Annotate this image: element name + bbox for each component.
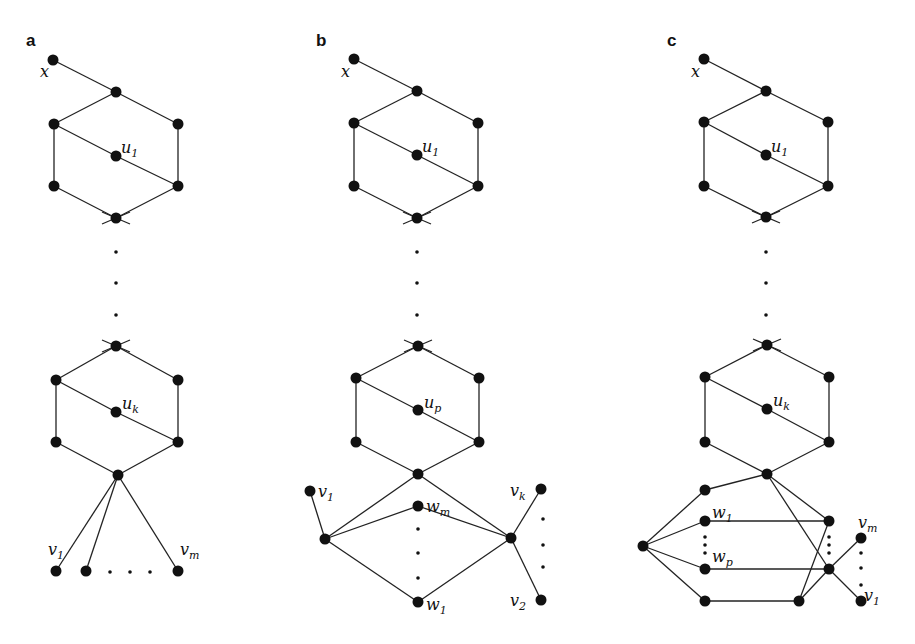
vertex-u1 <box>412 150 423 161</box>
vertex-label: w1 <box>426 595 447 617</box>
edge <box>356 346 418 378</box>
edge <box>354 123 417 155</box>
edge <box>705 474 767 490</box>
vertex-t1 <box>412 86 423 97</box>
edge <box>418 538 511 602</box>
vertex-u2 <box>762 404 773 415</box>
ellipsis-dot <box>415 281 419 285</box>
vertex-l2 <box>51 375 62 386</box>
vertex-label: vk <box>510 481 526 503</box>
edge <box>56 380 116 412</box>
vertex-label: v1 <box>318 482 334 504</box>
vertex-bl2 <box>351 437 362 448</box>
vertex-r2 <box>173 375 184 386</box>
edge <box>118 475 178 571</box>
vertex-br1 <box>173 181 184 192</box>
ellipsis-dot <box>541 543 545 547</box>
edge <box>356 442 418 474</box>
vertex-bl2 <box>700 437 711 448</box>
ellipsis-dot <box>859 551 863 555</box>
edge <box>767 442 829 474</box>
vertex-wp <box>700 564 711 575</box>
edge <box>354 186 417 218</box>
ellipsis-dot <box>703 551 707 555</box>
edge <box>56 442 118 475</box>
edge <box>705 377 767 409</box>
panel-b: bxu1upv1wmvkw1v2 <box>305 31 547 617</box>
edge <box>704 91 766 122</box>
vertex-bl1 <box>49 181 60 192</box>
ellipsis-dot <box>541 565 545 569</box>
vertex-br2 <box>173 437 184 448</box>
ellipsis-dot <box>416 527 420 531</box>
vertex-label: uk <box>773 391 790 413</box>
vertex-label: up <box>424 393 441 415</box>
vertex-v1 <box>305 486 316 497</box>
vertex-r1 <box>173 119 184 130</box>
vertex-R2 <box>824 564 835 575</box>
vertex-r2 <box>824 372 835 383</box>
edge <box>705 442 767 474</box>
edge <box>417 155 478 186</box>
vertex-bot <box>700 596 711 607</box>
vertex-vm <box>856 533 867 544</box>
vertex-label: x <box>341 62 350 81</box>
panel-label: b <box>316 31 326 50</box>
edge <box>56 475 118 571</box>
edge <box>418 442 479 474</box>
vertex-br2 <box>474 437 485 448</box>
vertex-l1 <box>349 118 360 129</box>
vertex-l1 <box>49 119 60 130</box>
edge <box>643 521 705 546</box>
edge <box>643 490 705 546</box>
ellipsis-dot <box>114 281 118 285</box>
vertex-l1 <box>699 117 710 128</box>
ellipsis-dot <box>764 250 768 254</box>
ellipsis-dot <box>148 570 152 574</box>
figure-canvas: axu1ukv1vmbxu1upv1wmvkw1v2cxu1ukw1wpvmv1 <box>0 0 915 644</box>
edge <box>767 345 829 377</box>
vertex-botR <box>794 596 805 607</box>
vertex-label: wm <box>426 497 450 519</box>
vertex-l2 <box>351 373 362 384</box>
edge <box>767 474 829 521</box>
ellipsis-dot <box>827 543 831 547</box>
vertex-w1 <box>700 516 711 527</box>
vertex-b1 <box>412 213 423 224</box>
vertex-bl1 <box>699 181 710 192</box>
ellipsis-dot <box>764 281 768 285</box>
ellipsis-dot <box>827 551 831 555</box>
vertex-R1 <box>824 516 835 527</box>
edge <box>118 442 178 475</box>
ellipsis-dot <box>114 250 118 254</box>
vertex-u2 <box>413 405 424 416</box>
vertex-t1 <box>761 86 772 97</box>
vertex-b1 <box>111 213 122 224</box>
vertex-bl2 <box>51 437 62 448</box>
edge <box>325 506 418 539</box>
edge <box>356 378 418 410</box>
vertex-label: w1 <box>712 503 733 525</box>
vertex-vk <box>536 484 547 495</box>
edge <box>53 60 116 92</box>
edge <box>829 569 861 601</box>
vertex-hub <box>113 470 124 481</box>
vertex-a <box>700 485 711 496</box>
edge <box>418 346 479 378</box>
panel-c: cxu1ukw1wpvmv1 <box>638 31 881 608</box>
vertex-label: wp <box>712 547 733 569</box>
edge <box>417 186 478 218</box>
vertex-t1 <box>111 87 122 98</box>
vertex-vm <box>173 566 184 577</box>
vertex-t2 <box>413 341 424 352</box>
edge <box>643 546 705 601</box>
ellipsis-dot <box>859 566 863 570</box>
edge <box>829 538 861 569</box>
panel-a: axu1ukv1vm <box>26 31 199 577</box>
panel-label: c <box>667 31 676 50</box>
vertex-x <box>349 54 360 65</box>
ellipsis-dot <box>415 250 419 254</box>
edge <box>54 124 116 156</box>
vertex-br1 <box>473 181 484 192</box>
vertex-br2 <box>824 437 835 448</box>
